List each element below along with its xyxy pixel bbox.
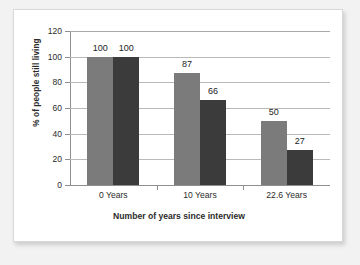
page-root: % of people still living 020406080100120… xyxy=(0,0,360,265)
x-axis-category-label: 10 Years xyxy=(183,190,216,200)
bar-value-label: 100 xyxy=(93,43,108,53)
y-axis-tick-label: 20 xyxy=(22,154,62,164)
bar[interactable] xyxy=(261,121,287,185)
bar[interactable] xyxy=(200,100,226,185)
x-axis-separator-tick xyxy=(243,186,244,190)
bar-chart: % of people still living 020406080100120… xyxy=(14,10,344,243)
bar[interactable] xyxy=(287,150,313,185)
y-axis-tick-label: 120 xyxy=(22,26,62,36)
x-axis-title: Number of years since interview xyxy=(14,211,344,221)
bar[interactable] xyxy=(174,73,200,185)
plot-area xyxy=(70,31,330,185)
bar-value-label: 100 xyxy=(119,43,134,53)
bar[interactable] xyxy=(87,57,113,185)
x-axis-separator-tick xyxy=(157,186,158,190)
y-axis-tick-label: 100 xyxy=(22,52,62,62)
y-axis-tick-label: 40 xyxy=(22,129,62,139)
y-axis-tick-label: 60 xyxy=(22,103,62,113)
bar-value-label: 66 xyxy=(208,86,218,96)
bar-value-label: 27 xyxy=(295,136,305,146)
y-axis-tick-label: 0 xyxy=(22,180,62,190)
bar[interactable] xyxy=(113,57,139,185)
bar-value-label: 87 xyxy=(182,59,192,69)
x-axis-category-label: 22.6 Years xyxy=(266,190,307,200)
x-axis-category-label: 0 Years xyxy=(99,190,128,200)
gridline xyxy=(70,185,330,186)
y-axis-tick-label: 80 xyxy=(22,77,62,87)
chart-card: % of people still living 020406080100120… xyxy=(13,9,343,242)
bar-value-label: 50 xyxy=(269,107,279,117)
